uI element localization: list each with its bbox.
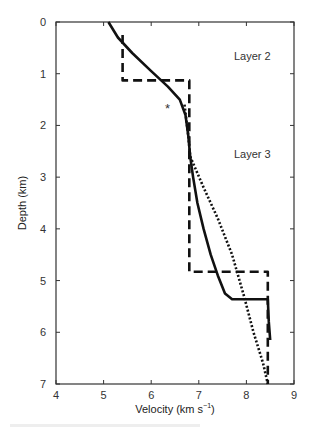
y-tick-label: 7 (40, 378, 46, 390)
y-tick-label: 1 (40, 68, 46, 80)
x-tick-label: 7 (196, 389, 202, 401)
x-tick-label: 5 (101, 389, 107, 401)
x-axis-label-main: Velocity (km s (135, 403, 203, 415)
x-tick-label: 8 (243, 389, 249, 401)
asterisk-marker: * (165, 101, 170, 116)
y-tick-label: 6 (40, 326, 46, 338)
y-tick-label: 0 (40, 16, 46, 28)
dashed-layered-model-line (123, 35, 268, 384)
figure-caption-faint (10, 424, 200, 427)
y-tick-label: 5 (40, 275, 46, 287)
x-axis-label-exponent: −1 (203, 402, 211, 409)
layer-3-label: Layer 3 (234, 148, 271, 160)
velocity-depth-chart: 456789 01234567 Layer 2 Layer 3 * Veloci… (0, 0, 310, 435)
x-axis-label-close: ) (211, 403, 215, 415)
plot-border (56, 22, 294, 384)
x-axis-label: Velocity (km s−1) (135, 402, 215, 415)
x-tick-label: 6 (148, 389, 154, 401)
dotted-profile-line (185, 105, 268, 384)
layer-2-label: Layer 2 (234, 50, 271, 62)
y-axis-ticks: 01234567 (40, 16, 294, 390)
x-tick-label: 9 (291, 389, 297, 401)
plot-frame (56, 22, 294, 384)
y-tick-label: 4 (40, 223, 46, 235)
y-axis-label: Depth (km) (16, 176, 28, 230)
y-tick-label: 3 (40, 171, 46, 183)
y-tick-label: 2 (40, 119, 46, 131)
x-axis-ticks: 456789 (53, 22, 297, 401)
x-tick-label: 4 (53, 389, 59, 401)
series-layer (108, 22, 270, 384)
